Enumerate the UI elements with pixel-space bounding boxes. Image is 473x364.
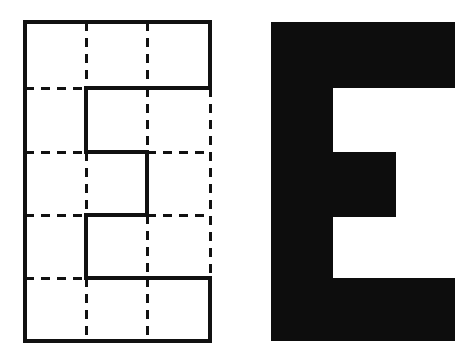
grid-outline-panel	[0, 0, 240, 364]
grid-outline-figure	[0, 0, 240, 364]
solid-letter-panel	[240, 0, 473, 364]
figure-pair: Block letter E shown as a grid-traced ou…	[0, 0, 473, 364]
solid-letter-figure	[240, 0, 473, 364]
left-panel-background	[0, 0, 240, 364]
